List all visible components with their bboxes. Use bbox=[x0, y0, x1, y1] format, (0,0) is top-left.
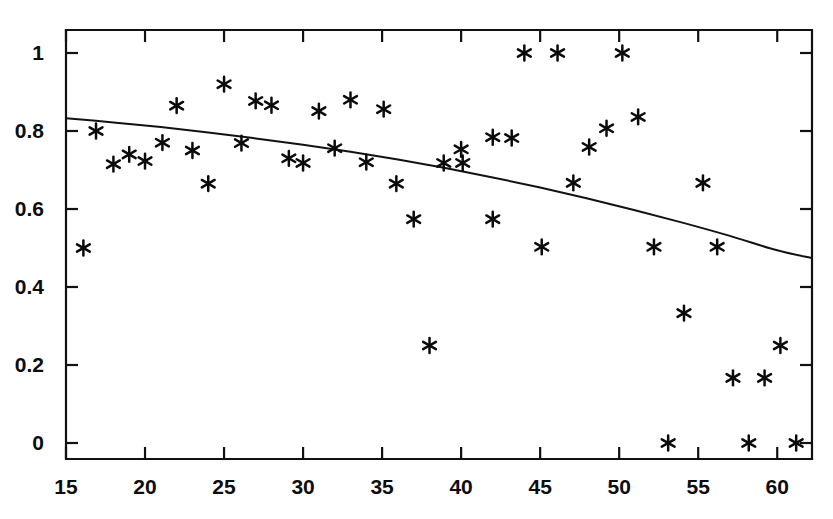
data-point-marker bbox=[344, 92, 357, 107]
data-point-marker bbox=[455, 142, 468, 157]
data-point-marker bbox=[390, 176, 403, 191]
data-point-marker bbox=[678, 306, 691, 321]
data-point-marker bbox=[583, 140, 596, 155]
data-point-marker bbox=[600, 121, 613, 136]
x-tick-label-8: 55 bbox=[687, 475, 711, 498]
data-point-marker bbox=[170, 98, 183, 113]
data-point-marker bbox=[377, 102, 390, 117]
data-point-marker bbox=[407, 212, 420, 227]
data-point-marker bbox=[711, 239, 724, 254]
fitted-trend-line bbox=[66, 118, 812, 258]
x-tick-label-0: 15 bbox=[54, 475, 78, 498]
y-tick-label-4: 0.8 bbox=[15, 119, 45, 142]
data-point-marker bbox=[139, 154, 152, 169]
x-tick-label-4: 35 bbox=[370, 475, 394, 498]
y-tick-label-5: 1 bbox=[32, 41, 44, 64]
data-point-marker bbox=[77, 241, 90, 256]
scatter-plot-figure: 00.20.40.60.81 15202530354045505560 bbox=[0, 0, 833, 519]
data-point-marker bbox=[774, 338, 787, 353]
axes bbox=[66, 30, 812, 459]
data-point-marker bbox=[567, 175, 580, 190]
trend-line-path bbox=[66, 118, 812, 258]
x-tick-label-5: 40 bbox=[449, 475, 472, 498]
y-tick-label-1: 0.2 bbox=[15, 353, 44, 376]
data-point-marker bbox=[186, 143, 199, 158]
data-point-marker bbox=[662, 436, 675, 451]
data-point-marker bbox=[156, 135, 169, 150]
data-point-marker bbox=[758, 370, 771, 385]
data-point-marker bbox=[518, 46, 531, 61]
plot-box-frame bbox=[66, 30, 812, 459]
y-axis-tick-labels: 00.20.40.60.81 bbox=[15, 41, 45, 454]
tick-marks bbox=[66, 30, 812, 459]
data-point-marker bbox=[648, 239, 661, 254]
data-point-marker bbox=[202, 176, 215, 191]
data-point-marker bbox=[123, 147, 136, 162]
data-point-marker bbox=[551, 46, 564, 61]
plot-canvas: 00.20.40.60.81 15202530354045505560 bbox=[0, 0, 833, 519]
x-tick-label-7: 50 bbox=[607, 475, 630, 498]
data-point-marker bbox=[616, 46, 629, 61]
y-tick-label-0: 0 bbox=[32, 431, 44, 454]
x-axis-tick-labels: 15202530354045505560 bbox=[54, 475, 789, 498]
x-tick-label-2: 25 bbox=[212, 475, 236, 498]
data-point-marker bbox=[249, 94, 262, 109]
y-tick-label-3: 0.6 bbox=[15, 197, 44, 220]
x-tick-label-3: 30 bbox=[291, 475, 314, 498]
data-point-marker bbox=[218, 77, 231, 92]
data-point-marker bbox=[282, 151, 295, 166]
data-point-marker bbox=[423, 338, 436, 353]
data-point-marker bbox=[90, 124, 103, 139]
data-point-marker bbox=[456, 156, 469, 171]
x-tick-label-6: 45 bbox=[528, 475, 552, 498]
data-point-marker bbox=[742, 436, 755, 451]
data-point-marker bbox=[727, 370, 740, 385]
data-point-marker bbox=[312, 104, 325, 119]
data-point-marker bbox=[486, 212, 499, 227]
axis-spines bbox=[66, 30, 812, 459]
data-point-marker bbox=[297, 156, 310, 171]
data-point-marker bbox=[107, 157, 120, 172]
data-point-markers bbox=[77, 46, 803, 451]
data-point-marker bbox=[505, 131, 518, 146]
x-tick-label-9: 60 bbox=[766, 475, 789, 498]
data-point-marker bbox=[535, 239, 548, 254]
data-point-marker bbox=[486, 130, 499, 145]
data-point-marker bbox=[360, 155, 373, 170]
x-tick-label-1: 20 bbox=[133, 475, 156, 498]
y-tick-label-2: 0.4 bbox=[15, 275, 45, 298]
data-point-marker bbox=[697, 175, 710, 190]
data-point-marker bbox=[265, 98, 278, 113]
data-point-marker bbox=[632, 110, 645, 125]
